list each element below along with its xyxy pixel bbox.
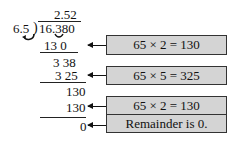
step-1-product: 13 0 (44, 39, 67, 52)
step-2-product: 3 25 (55, 69, 78, 82)
final-remainder: 0 (80, 120, 87, 133)
quotient: 2.52 (54, 8, 77, 21)
decimal-shift-arrow-icon (22, 33, 36, 43)
arrow-left-icon (88, 106, 106, 107)
annotation-label: 65 × 5 = 325 (133, 68, 200, 84)
annotation-box: 65 × 2 = 130 (106, 96, 227, 115)
annotation-box: 65 × 2 = 130 (106, 35, 227, 55)
annotation-box: 65 × 5 = 325 (106, 66, 227, 85)
annotation-box: Remainder is 0. (106, 114, 227, 133)
annotation-label: Remainder is 0. (126, 116, 208, 132)
step-2-rule (40, 82, 86, 83)
step-1-rule (40, 52, 78, 53)
annotation-label: 65 × 2 = 130 (133, 98, 200, 114)
step-3-product: 130 (66, 101, 86, 114)
step-2-remainder: 130 (66, 85, 86, 98)
arrow-left-icon (88, 45, 106, 46)
step-3-rule (40, 117, 86, 118)
annotation-label: 65 × 2 = 130 (133, 37, 200, 53)
arrow-left-icon (88, 75, 106, 76)
arrow-left-icon (88, 125, 106, 126)
